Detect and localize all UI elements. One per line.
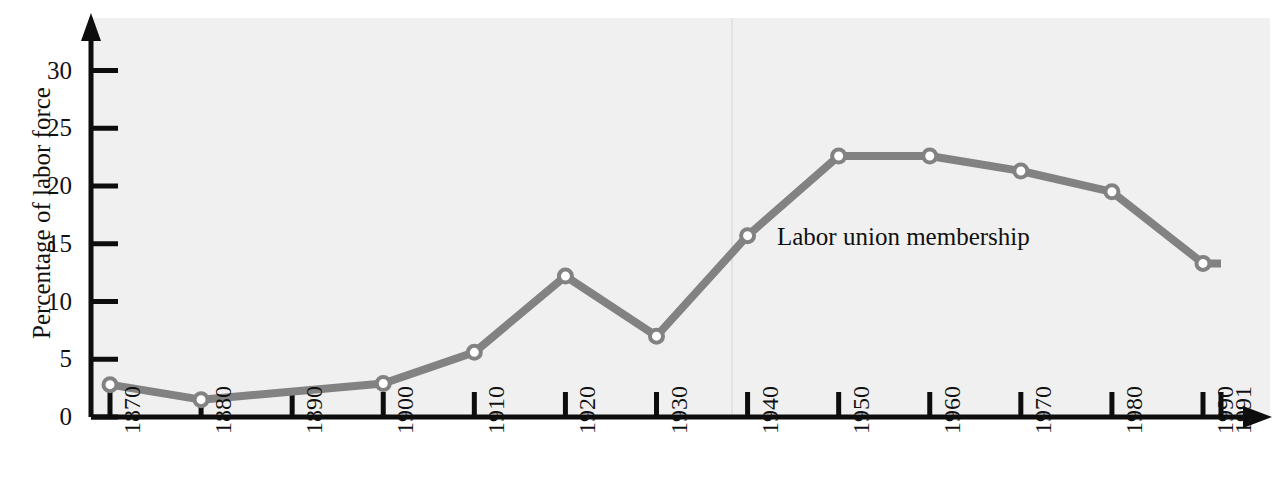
series-annotation-label: Labor union membership <box>777 223 1030 251</box>
data-point-marker <box>1014 164 1027 177</box>
x-tick-label: 1880 <box>211 386 235 434</box>
x-tick-label: 1991 <box>1231 386 1255 434</box>
x-tick-label: 1920 <box>575 386 599 434</box>
data-point-marker <box>923 149 936 162</box>
y-tick-label: 30 <box>28 58 72 83</box>
data-point-marker <box>832 149 845 162</box>
data-point-marker <box>741 229 754 242</box>
series-line <box>110 156 1221 400</box>
data-point-marker <box>650 330 663 343</box>
y-tick-label: 15 <box>28 231 72 256</box>
x-tick-label: 1960 <box>940 386 964 434</box>
y-tick-label: 0 <box>28 404 72 429</box>
x-tick-label: 1890 <box>302 386 326 434</box>
x-tick-label: 1900 <box>393 386 417 434</box>
data-point-marker <box>377 377 390 390</box>
y-tick-label: 10 <box>28 289 72 314</box>
data-point-marker <box>104 378 117 391</box>
x-tick-label: 1970 <box>1031 386 1055 434</box>
data-point-marker <box>468 346 481 359</box>
chart-svg <box>0 0 1288 503</box>
x-tick-label: 1940 <box>758 386 782 434</box>
series-markers <box>104 149 1210 406</box>
y-tick-label: 25 <box>28 115 72 140</box>
data-point-marker <box>1105 185 1118 198</box>
up-arrow-icon <box>81 13 101 41</box>
chart-container: Percentage of labor force 051015202530 1… <box>0 0 1288 503</box>
data-point-marker <box>1197 257 1210 270</box>
series-lines <box>110 156 1221 400</box>
x-tick-label: 1930 <box>667 386 691 434</box>
x-tick-label: 1870 <box>120 386 144 434</box>
y-tick-marks <box>91 71 118 418</box>
x-tick-label: 1950 <box>849 386 873 434</box>
x-tick-label: 1980 <box>1122 386 1146 434</box>
y-tick-label: 5 <box>28 346 72 371</box>
x-tick-label: 1910 <box>484 386 508 434</box>
axes-group <box>81 13 1272 428</box>
data-point-marker <box>195 393 208 406</box>
y-tick-label: 20 <box>28 173 72 198</box>
data-point-marker <box>559 270 572 283</box>
